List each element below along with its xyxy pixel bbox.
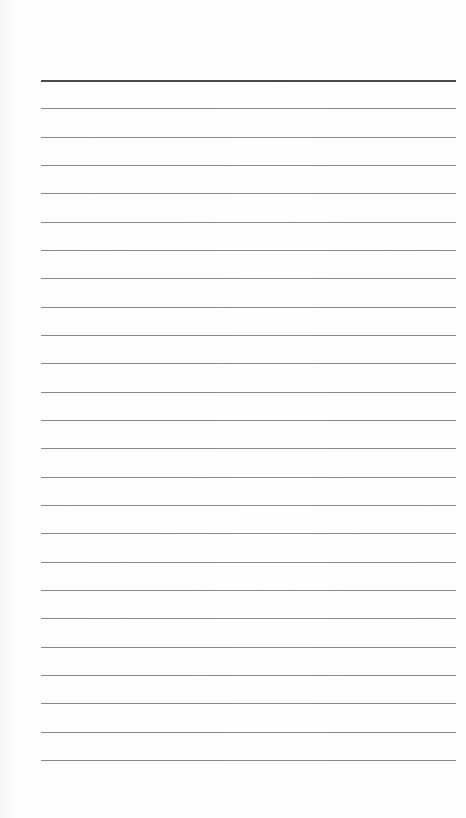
ruled-line <box>41 165 456 166</box>
ruled-line <box>41 448 456 449</box>
ruled-line <box>41 533 456 534</box>
ruled-line <box>41 392 456 393</box>
ruled-line <box>41 477 456 478</box>
lined-paper-page <box>0 0 466 818</box>
ruled-line <box>41 307 456 308</box>
ruled-line <box>41 335 456 336</box>
ruled-line <box>41 222 456 223</box>
ruled-line <box>41 675 456 676</box>
ruled-line <box>41 618 456 619</box>
ruled-line <box>41 647 456 648</box>
ruled-line <box>41 137 456 138</box>
ruled-line <box>41 108 456 109</box>
ruled-line <box>41 732 456 733</box>
header-rule-line <box>41 80 456 82</box>
ruled-line <box>41 562 456 563</box>
ruled-line <box>41 420 456 421</box>
ruled-line <box>41 505 456 506</box>
ruled-line <box>41 193 456 194</box>
ruled-line <box>41 760 456 761</box>
ruled-line <box>41 250 456 251</box>
ruled-line <box>41 703 456 704</box>
ruled-line <box>41 363 456 364</box>
ruled-line <box>41 278 456 279</box>
ruled-line <box>41 590 456 591</box>
